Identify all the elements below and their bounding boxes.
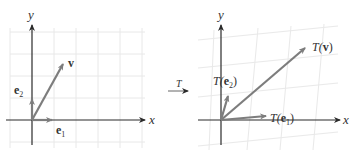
transform-arrow: T [168,78,188,91]
vector-v [32,64,63,120]
right-panel: x y T(e1) T(e2) T(v) [198,7,349,150]
transform-label: T [176,78,183,89]
label-v: v [68,56,74,70]
label-T-e1: T(e1) [270,111,294,127]
left-y-axis-label: y [26,7,34,22]
left-x-axis-label: x [148,112,155,127]
label-T-e2: T(e2) [213,74,237,90]
label-T-v: T(v) [312,40,333,54]
right-x-axis-label: x [342,112,349,127]
label-e1: e1 [56,123,65,139]
linear-transformation-diagram: x y e1 e2 v T x y T(e1) T(e2) T(v) [0,0,356,155]
right-y-axis-label: y [216,7,224,22]
label-e2: e2 [14,83,23,99]
left-grid [10,28,145,148]
left-panel: x y e1 e2 v [6,7,155,148]
